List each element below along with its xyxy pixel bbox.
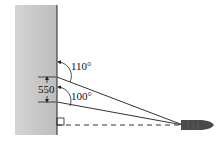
diagram: 110° 100° 550 (0, 0, 224, 146)
right-angle-marker (57, 118, 64, 125)
sight-line-bottom (57, 102, 183, 125)
wall (15, 5, 57, 135)
distance-label: 550 (38, 83, 55, 95)
angle-label-bottom: 100° (71, 90, 92, 102)
boat-icon (181, 120, 214, 130)
angle-label-top: 110° (71, 60, 92, 72)
